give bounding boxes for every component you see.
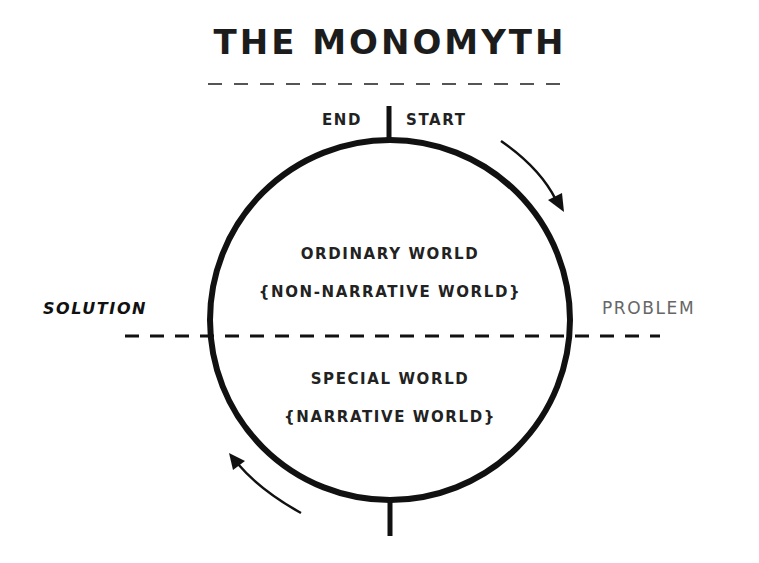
solution-label: SOLUTION (43, 299, 147, 318)
ordinary-world-label: ORDINARY WORLD (210, 245, 570, 263)
page-title: THE MONOMYTH (0, 22, 759, 62)
clockwise-arrow-down-icon (501, 141, 564, 212)
monomyth-diagram (0, 0, 759, 563)
narrative-world-label: {NARRATIVE WORLD} (210, 408, 570, 426)
special-world-label: SPECIAL WORLD (210, 370, 570, 388)
journey-circle (210, 140, 570, 500)
end-label: END (322, 111, 362, 129)
problem-label: PROBLEM (602, 298, 695, 318)
non-narrative-world-label: {NON-NARRATIVE WORLD} (210, 283, 570, 301)
clockwise-arrow-up-icon (229, 453, 301, 513)
start-label: START (406, 111, 467, 129)
